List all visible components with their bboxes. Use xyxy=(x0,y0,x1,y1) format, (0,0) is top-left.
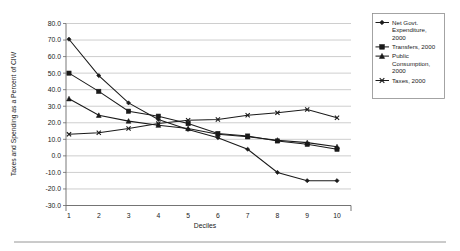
legend-label: Net Govt. xyxy=(392,19,418,26)
x-tick-label: 6 xyxy=(216,212,220,219)
x-tick-label: 5 xyxy=(186,212,190,219)
y-tick-label: 70.0 xyxy=(48,36,61,43)
legend-label: Public xyxy=(392,52,409,59)
x-tick-label: 4 xyxy=(156,212,160,219)
data-point-square xyxy=(156,114,160,118)
y-tick-label: -20.0 xyxy=(46,185,62,192)
y-tick-label: 30.0 xyxy=(48,103,61,110)
y-tick-label: 40.0 xyxy=(48,86,61,93)
y-tick-label: 0.0 xyxy=(52,152,62,159)
x-tick-label: 8 xyxy=(276,212,280,219)
x-tick-label: 2 xyxy=(97,212,101,219)
legend-label: 2000 xyxy=(392,67,406,74)
legend-label: Expenditure, xyxy=(392,26,427,33)
data-point-square xyxy=(126,109,130,113)
chart-figure: 80.070.060.050.040.030.020.010.00.0-10.0… xyxy=(0,0,460,251)
x-tick-label: 1 xyxy=(67,212,71,219)
y-tick-label: 80.0 xyxy=(48,20,61,27)
legend-label: Transfers, 2000 xyxy=(392,43,436,50)
x-tick-label: 7 xyxy=(246,212,250,219)
x-axis-title: Deciles xyxy=(194,222,217,229)
legend-label: Taxes, 2000 xyxy=(392,77,426,84)
y-tick-label: 10.0 xyxy=(48,136,61,143)
y-tick-label: -30.0 xyxy=(46,202,62,209)
x-tick-label: 10 xyxy=(333,212,341,219)
legend-label: Consumption, xyxy=(392,60,430,67)
y-tick-label: 50.0 xyxy=(48,70,61,77)
y-tick-label: -10.0 xyxy=(46,169,62,176)
y-tick-label: 60.0 xyxy=(48,53,61,60)
data-point-square xyxy=(67,71,71,75)
line-chart: 80.070.060.050.040.030.020.010.00.0-10.0… xyxy=(0,0,460,251)
x-tick-label: 3 xyxy=(127,212,131,219)
y-tick-label: 20.0 xyxy=(48,119,61,126)
y-axis-title: Taxes and Spending as a Percent of CIW xyxy=(10,51,18,176)
data-point-square xyxy=(97,89,101,93)
data-point-square xyxy=(380,45,385,50)
legend-label: 2000 xyxy=(392,34,406,41)
x-tick-label: 9 xyxy=(305,212,309,219)
